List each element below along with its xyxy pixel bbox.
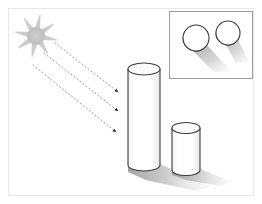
short-cylinder (172, 123, 200, 176)
tall-cylinder-top (128, 63, 160, 75)
top-view-inset (170, 12, 253, 79)
inset-circle-tall-face (183, 25, 209, 51)
inset-circle-short (216, 21, 240, 45)
short-cylinder-body (172, 128, 200, 176)
inset-circle-tall (183, 25, 209, 51)
short-cylinder-top (172, 123, 200, 134)
illustration-canvas (0, 0, 262, 204)
tall-cylinder-body (128, 69, 160, 171)
sun-core (27, 27, 45, 45)
tall-cylinder (128, 63, 160, 171)
scene-svg (0, 0, 262, 204)
inset-circle-short-face (216, 21, 240, 45)
